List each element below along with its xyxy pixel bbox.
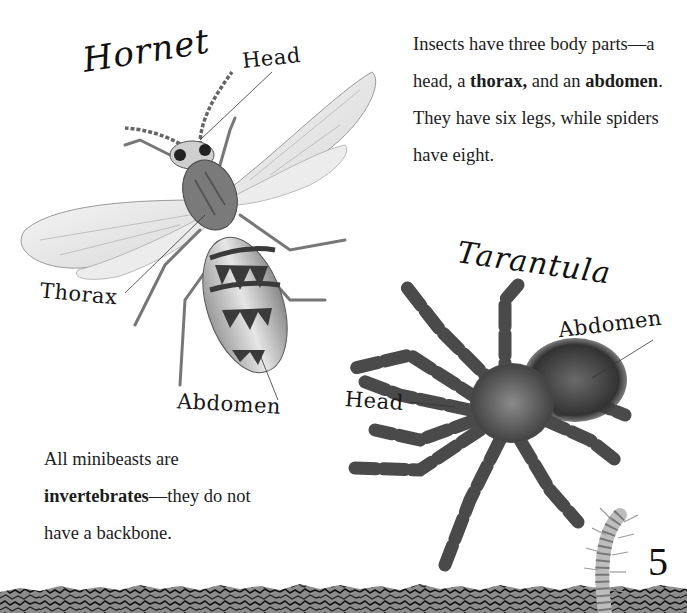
note-bold-invertebrates: invertebrates — [44, 486, 149, 506]
intro-bold-abdomen: abdomen — [585, 71, 658, 91]
soil-border — [0, 584, 687, 613]
hornet-illustration — [21, 72, 376, 400]
intro-bold-thorax: thorax, — [470, 71, 527, 91]
invertebrates-note: All minibeasts are invertebrates—they do… — [44, 441, 284, 552]
page-number: 5 — [648, 538, 668, 585]
tarantula-head-label: Head — [344, 387, 404, 415]
intro-text-2: and an — [527, 71, 585, 91]
book-page: Insects have three body parts—a head, a … — [0, 0, 687, 613]
intro-paragraph: Insects have three body parts—a head, a … — [413, 26, 687, 174]
note-text-1: All minibeasts are — [44, 449, 179, 469]
